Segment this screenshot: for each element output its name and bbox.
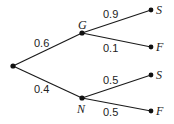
- leaf-label-N-F: F: [155, 104, 164, 118]
- leaf-G-S: [149, 8, 154, 13]
- label-G: G: [78, 18, 87, 32]
- prob-G-F: 0.1: [103, 42, 118, 54]
- node-N: [79, 95, 84, 100]
- label-N: N: [76, 102, 86, 116]
- leaf-N-F: [149, 109, 154, 114]
- leaf-N-S: [149, 73, 154, 78]
- prob-G-S: 0.9: [103, 8, 118, 20]
- prob-root-N: 0.4: [34, 83, 49, 95]
- leaf-label-G-S: S: [156, 3, 162, 17]
- probability-tree: 0.6 0.4 G N 0.9 0.1 0.5 0.5 S F S F: [0, 0, 174, 124]
- prob-N-S: 0.5: [103, 74, 118, 86]
- leaf-label-N-S: S: [156, 68, 162, 82]
- leaf-G-F: [149, 45, 154, 50]
- leaf-label-G-F: F: [155, 40, 164, 54]
- prob-N-F: 0.5: [103, 106, 118, 118]
- prob-root-G: 0.6: [34, 37, 49, 49]
- root-node: [10, 63, 15, 68]
